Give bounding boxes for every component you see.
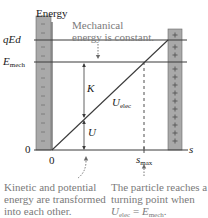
emech-label-sub: mech (10, 61, 25, 69)
y-zero-label: 0 (25, 144, 31, 155)
turning-eq-period: . (164, 205, 167, 217)
turning-eq-u: U (111, 205, 119, 217)
qed-label: qEd (3, 34, 21, 45)
s-axis-label: s (189, 144, 193, 155)
top-note-pointer (96, 44, 100, 59)
k-arrow (82, 63, 86, 118)
emech-label-main: E (3, 55, 10, 67)
negative-plate (36, 16, 51, 150)
turning-eq-e-sub: mech (149, 211, 164, 218)
bottom-right-annotation: The particle reaches a turning point whe… (111, 181, 208, 218)
uelec-label: Uelec (112, 97, 131, 110)
turning-eq-u-sub: elec (119, 211, 130, 218)
energy-axis-title: Energy (36, 8, 68, 19)
uelec-label-main: U (112, 96, 120, 108)
k-label: K (87, 83, 94, 94)
bottom-left-note-pointer (78, 156, 88, 178)
emech-label: Emech (3, 56, 25, 69)
smax-label-sub: max (140, 159, 152, 167)
turning-point-text: The particle reaches a turning point whe… (111, 181, 207, 205)
top-annotation: Mechanical energy is constant. (72, 19, 154, 43)
bottom-left-annotation: Kinetic and potential energy are transfo… (4, 181, 106, 217)
uelec-line (52, 40, 168, 150)
x-zero-label: 0 (49, 155, 55, 166)
uelec-label-sub: elec (120, 102, 131, 110)
u-arrow (82, 120, 86, 150)
u-label: U (88, 127, 96, 138)
smax-label: smax (136, 154, 152, 167)
turning-eq-equals: = (130, 205, 142, 217)
turning-eq-e: E (142, 205, 149, 217)
